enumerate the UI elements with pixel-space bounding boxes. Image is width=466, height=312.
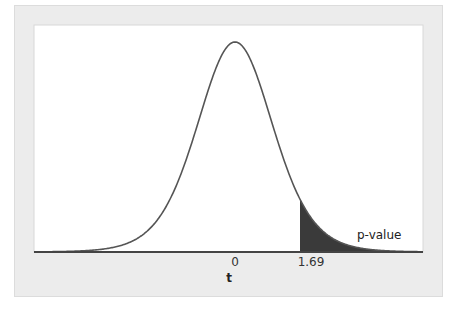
p-value-label: p-value bbox=[357, 228, 401, 242]
plot-area bbox=[34, 25, 423, 252]
t-distribution-chart: 0 1.69 t p-value bbox=[0, 0, 466, 312]
x-axis-label: t bbox=[226, 271, 232, 285]
x-tick-label-0: 0 bbox=[231, 255, 239, 269]
x-tick-label-t-observed: 1.69 bbox=[298, 255, 325, 269]
